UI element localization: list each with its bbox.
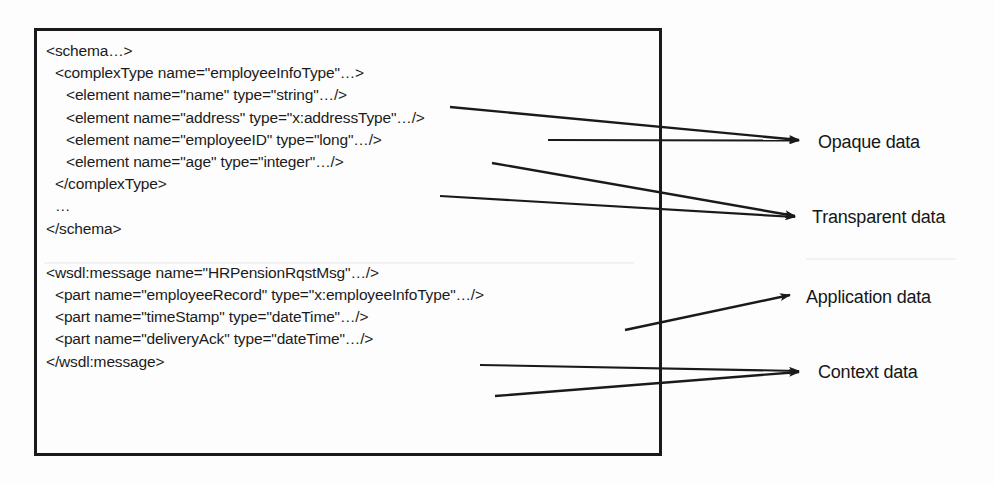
code-line: <wsdl:message name="HRPensionRqstMsg"…/> bbox=[46, 262, 646, 284]
callout-label-transparent: Transparent data bbox=[812, 208, 945, 226]
code-line: <element name="employeeID" type="long"…/… bbox=[46, 129, 646, 151]
code-line: </wsdl:message> bbox=[46, 351, 646, 373]
callout-label-context: Context data bbox=[818, 363, 918, 381]
code-line bbox=[46, 240, 646, 262]
code-line: </schema> bbox=[46, 218, 646, 240]
code-line: <element name="name" type="string"…/> bbox=[46, 84, 646, 106]
code-line: <element name="address" type="x:addressT… bbox=[46, 107, 646, 129]
code-line: <part name="deliveryAck" type="dateTime"… bbox=[46, 328, 646, 350]
code-line: </complexType> bbox=[46, 173, 646, 195]
code-line: <part name="employeeRecord" type="x:empl… bbox=[46, 284, 646, 306]
schema-code-listing: <schema…><complexType name="employeeInfo… bbox=[46, 40, 646, 373]
code-line: <element name="age" type="integer"…/> bbox=[46, 151, 646, 173]
scan-artifact bbox=[806, 258, 956, 260]
callout-label-opaque: Opaque data bbox=[818, 133, 920, 151]
code-line: <schema…> bbox=[46, 40, 646, 62]
diagram-canvas: <schema…><complexType name="employeeInfo… bbox=[0, 0, 995, 483]
code-line: … bbox=[46, 195, 646, 217]
code-line: <part name="timeStamp" type="dateTime"…/… bbox=[46, 306, 646, 328]
code-line: <complexType name="employeeInfoType"…> bbox=[46, 62, 646, 84]
callout-label-application: Application data bbox=[806, 288, 931, 306]
